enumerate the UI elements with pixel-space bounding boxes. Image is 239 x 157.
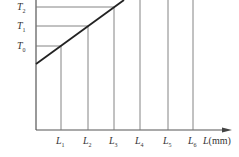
label-t0: T0 — [17, 41, 26, 55]
label-l5: L5 — [163, 136, 172, 150]
label-l2: L2 — [83, 136, 92, 150]
label-l6: L6 — [188, 136, 197, 150]
x-axis-label: L(mm) — [203, 136, 231, 146]
label-l1: L1 — [56, 136, 65, 150]
label-l3: L3 — [109, 136, 118, 150]
x-axis-arrow-icon — [222, 128, 232, 133]
label-l4: L4 — [135, 136, 144, 150]
temperature-line — [36, 0, 124, 64]
diagram: T2 T1 T0 L1 L2 L3 L4 L5 L6 L(mm) — [0, 0, 239, 157]
diagram-canvas — [0, 0, 239, 157]
label-t2: T2 — [17, 2, 26, 16]
label-t1: T1 — [17, 21, 26, 35]
